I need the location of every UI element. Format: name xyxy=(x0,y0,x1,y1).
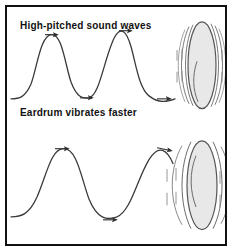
label-high-pitched-title: High-pitched sound waves xyxy=(20,20,151,32)
panel-low-pitched: Low-pitched sound waves Eardrum vibrates… xyxy=(7,126,225,245)
wave-path-low xyxy=(11,148,173,218)
figure-frame: High-pitched sound waves Eardrum vibrate… xyxy=(5,5,227,246)
low-pitched-wave xyxy=(11,147,173,219)
label-eardrum-vibrates-faster: Eardrum vibrates faster xyxy=(20,107,137,119)
eardrum-low xyxy=(167,140,225,229)
eardrum-membrane-high xyxy=(188,22,216,109)
panel-high-pitched: High-pitched sound waves Eardrum vibrate… xyxy=(7,7,225,126)
high-pitched-wave xyxy=(11,31,175,102)
low-pitched-illustration xyxy=(7,126,225,245)
wave-path-high xyxy=(11,31,175,101)
sound-wave-eardrum-figure: High-pitched sound waves Eardrum vibrate… xyxy=(0,0,233,252)
eardrum-high xyxy=(177,22,225,109)
